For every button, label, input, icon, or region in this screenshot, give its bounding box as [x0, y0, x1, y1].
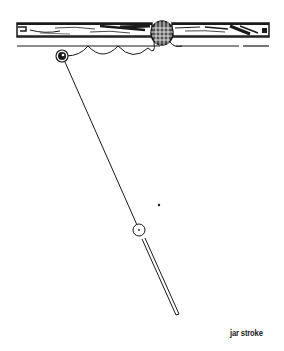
- corner-pocket: [151, 21, 173, 45]
- table-rail: [17, 23, 269, 46]
- ball-path: [65, 62, 137, 225]
- jar-stroke-diagram: [0, 0, 284, 351]
- aim-dot: [158, 204, 160, 206]
- object-ball: [56, 50, 68, 62]
- diagram-caption: jar stroke: [230, 328, 263, 338]
- cue-stick: [142, 238, 179, 315]
- cue-ball: [133, 224, 145, 236]
